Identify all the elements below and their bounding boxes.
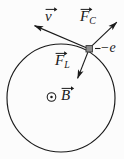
- velocity-vector-arrow: [35, 26, 88, 49]
- diagram-canvas: [0, 0, 124, 159]
- lorentz-force-vector-arrow: [78, 51, 89, 78]
- bfield-symbol: B: [61, 87, 70, 103]
- force-l-symbol: F: [55, 52, 64, 68]
- electron-charge-marker: [86, 46, 92, 52]
- velocity-symbol: v: [45, 8, 52, 24]
- charge-label: −e: [100, 41, 116, 55]
- magnetic-field-label: B: [61, 88, 70, 103]
- physics-diagram-electron-in-magnetic-field: v F C F L −e: [0, 0, 124, 159]
- magnetic-field-out-of-page-icon: [47, 93, 56, 102]
- force-c-subscript: C: [89, 15, 96, 26]
- force-l-subscript: L: [64, 59, 70, 70]
- lorentz-force-label: F L: [55, 53, 70, 70]
- velocity-vector-label: v: [45, 9, 52, 24]
- centrifugal-force-label: F C: [80, 9, 96, 26]
- force-c-symbol: F: [80, 8, 89, 24]
